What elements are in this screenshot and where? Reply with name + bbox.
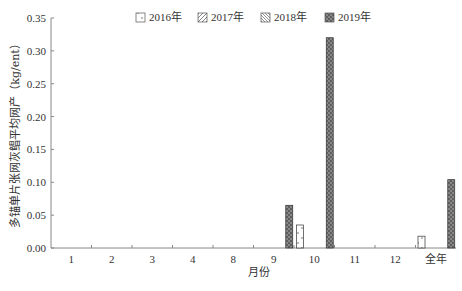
x-tick-label: 11 — [349, 253, 360, 265]
bar-2016年-全年 — [418, 236, 425, 248]
bar-2016年-10 — [297, 225, 304, 248]
legend-swatch — [325, 13, 334, 22]
y-tick-label: 0.10 — [27, 176, 47, 188]
legend-swatch — [198, 13, 207, 22]
x-tick-label: 3 — [150, 253, 156, 265]
legend-item: 2016年 — [136, 10, 182, 23]
x-tick-label: 8 — [231, 253, 237, 265]
legend-swatch — [136, 13, 145, 22]
x-tick-label: 12 — [390, 253, 401, 265]
y-tick-label: 0.35 — [27, 12, 47, 24]
x-tick-label: 2 — [109, 253, 115, 265]
bars — [286, 38, 455, 248]
bar-2019年-全年 — [448, 180, 455, 248]
legend-label: 2016年 — [149, 10, 182, 23]
legend-label: 2019年 — [338, 10, 371, 23]
legend-item: 2017年 — [198, 10, 244, 23]
y-tick-label: 0.00 — [27, 242, 47, 254]
legend-swatch — [261, 13, 270, 22]
y-tick-label: 0.25 — [27, 78, 47, 90]
bar-2019年-9 — [286, 205, 293, 248]
x-tick-label: 4 — [190, 253, 196, 265]
y-tick-label: 0.30 — [27, 45, 47, 57]
x-axis-title: 月份 — [248, 266, 270, 279]
legend-item: 2019年 — [325, 10, 371, 23]
bar-2019年-10 — [326, 38, 333, 248]
legend-item: 2018年 — [261, 10, 307, 23]
legend-label: 2018年 — [274, 10, 307, 23]
y-tick-label: 0.15 — [27, 143, 47, 155]
x-tick-label: 1 — [69, 253, 75, 265]
x-tick-label: 9 — [271, 253, 277, 265]
y-axis: 0.000.050.100.150.200.250.300.35 — [27, 12, 54, 254]
x-tick-label: 10 — [309, 253, 321, 265]
bar-chart: 2016年2017年2018年2019年 0.000.050.100.150.2… — [0, 0, 462, 291]
x-tick-label: 全年 — [425, 252, 447, 265]
x-axis: 123489101112全年 — [51, 245, 456, 265]
y-tick-label: 0.20 — [27, 111, 47, 123]
y-axis-title: 多锚单片张网灰鲳平均网产（kg/ent） — [8, 38, 22, 227]
legend-label: 2017年 — [211, 10, 244, 23]
legend: 2016年2017年2018年2019年 — [136, 10, 371, 23]
y-tick-label: 0.05 — [27, 209, 47, 221]
